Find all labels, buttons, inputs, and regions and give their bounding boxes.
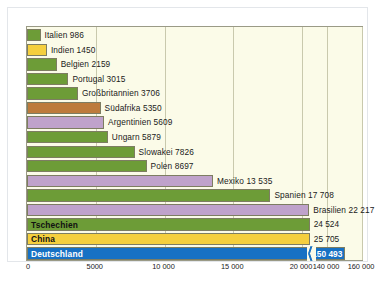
bar-row[interactable]: Indien 1450 bbox=[27, 43, 362, 58]
bar-ungarn[interactable] bbox=[27, 131, 108, 143]
bar-row[interactable]: Slowakei 7826 bbox=[27, 145, 362, 160]
bar-label-südafrika: Südafrika 5350 bbox=[105, 102, 162, 115]
bar-label-slowakei: Slowakei 7826 bbox=[139, 146, 194, 159]
bar-row[interactable]: Mexiko 13 535 bbox=[27, 174, 362, 189]
bar-row[interactable]: Großbritannien 3706 bbox=[27, 86, 362, 101]
bar-brasilien[interactable] bbox=[27, 204, 309, 216]
x-axis: 0500010 00015 00020 000140 000160 000 bbox=[26, 262, 363, 276]
bar-label-deutschland: Deutschland bbox=[31, 248, 83, 260]
bar-label-spanien: Spanien 17 708 bbox=[274, 189, 334, 202]
bar-value-tschechien: 24 524 bbox=[314, 218, 339, 231]
bar-italien[interactable] bbox=[27, 29, 41, 41]
bar-row[interactable]: Spanien 17 708 bbox=[27, 188, 362, 203]
bar-value-china: 25 705 bbox=[314, 233, 339, 246]
x-tick-5000: 5000 bbox=[87, 262, 103, 271]
figure-caption bbox=[18, 277, 378, 281]
bar-label-italien: Italien 986 bbox=[45, 29, 84, 42]
bar-indien[interactable] bbox=[27, 44, 47, 56]
bar-label-indien: Indien 1450 bbox=[51, 44, 95, 57]
x-tick-140000: 140 000 bbox=[313, 262, 340, 271]
x-tick-10000: 10 000 bbox=[152, 262, 175, 271]
bar-label-argentinien: Argentinien 5609 bbox=[108, 116, 172, 129]
x-tick-0: 0 bbox=[26, 262, 30, 271]
bar-row[interactable]: Deutschland150 493 bbox=[27, 246, 362, 261]
bar-mexiko[interactable] bbox=[27, 175, 213, 187]
bar-row[interactable]: Brasilien 22 217 bbox=[27, 203, 362, 218]
bar-rows: Italien 986Indien 1450Belgien 2159Portug… bbox=[27, 27, 362, 260]
bar-row[interactable]: Polen 8697 bbox=[27, 159, 362, 174]
bar-label-ungarn: Ungarn 5879 bbox=[112, 131, 161, 144]
bar-großbritannien[interactable] bbox=[27, 87, 78, 99]
chart-plot-area: Italien 986Indien 1450Belgien 2159Portug… bbox=[26, 26, 363, 261]
bar-row[interactable]: Italien 986 bbox=[27, 28, 362, 43]
bar-label-belgien: Belgien 2159 bbox=[61, 58, 111, 71]
bar-value-deutschland: 150 493 bbox=[312, 248, 342, 260]
bar-china[interactable] bbox=[27, 233, 310, 245]
bar-portugal[interactable] bbox=[27, 73, 68, 85]
axis-break-symbol bbox=[307, 246, 316, 261]
x-tick-20000: 20 000 bbox=[290, 262, 313, 271]
bar-spanien[interactable] bbox=[27, 189, 270, 201]
bar-row[interactable]: Tschechien24 524 bbox=[27, 217, 362, 232]
bar-polen[interactable] bbox=[27, 160, 147, 172]
bar-label-polen: Polen 8697 bbox=[151, 160, 194, 173]
gridline-160000 bbox=[362, 27, 363, 260]
bar-label-brasilien: Brasilien 22 217 bbox=[313, 204, 374, 217]
bar-label-mexiko: Mexiko 13 535 bbox=[217, 175, 272, 188]
bar-row[interactable]: China25 705 bbox=[27, 232, 362, 247]
bar-label-großbritannien: Großbritannien 3706 bbox=[82, 87, 160, 100]
x-tick-160000: 160 000 bbox=[348, 262, 375, 271]
figure-frame: Italien 986Indien 1450Belgien 2159Portug… bbox=[7, 7, 368, 262]
bar-row[interactable]: Portugal 3015 bbox=[27, 72, 362, 87]
bar-row[interactable]: Südafrika 5350 bbox=[27, 101, 362, 116]
bar-belgien[interactable] bbox=[27, 58, 57, 70]
bar-row[interactable]: Belgien 2159 bbox=[27, 57, 362, 72]
bar-row[interactable]: Argentinien 5609 bbox=[27, 115, 362, 130]
bar-label-china: China bbox=[31, 233, 55, 245]
bar-label-portugal: Portugal 3015 bbox=[72, 73, 125, 86]
bar-argentinien[interactable] bbox=[27, 116, 104, 128]
bar-slowakei[interactable] bbox=[27, 146, 135, 158]
bar-row[interactable]: Ungarn 5879 bbox=[27, 130, 362, 145]
bar-label-tschechien: Tschechien bbox=[31, 219, 78, 231]
bar-südafrika[interactable] bbox=[27, 102, 101, 114]
x-tick-15000: 15 000 bbox=[221, 262, 244, 271]
